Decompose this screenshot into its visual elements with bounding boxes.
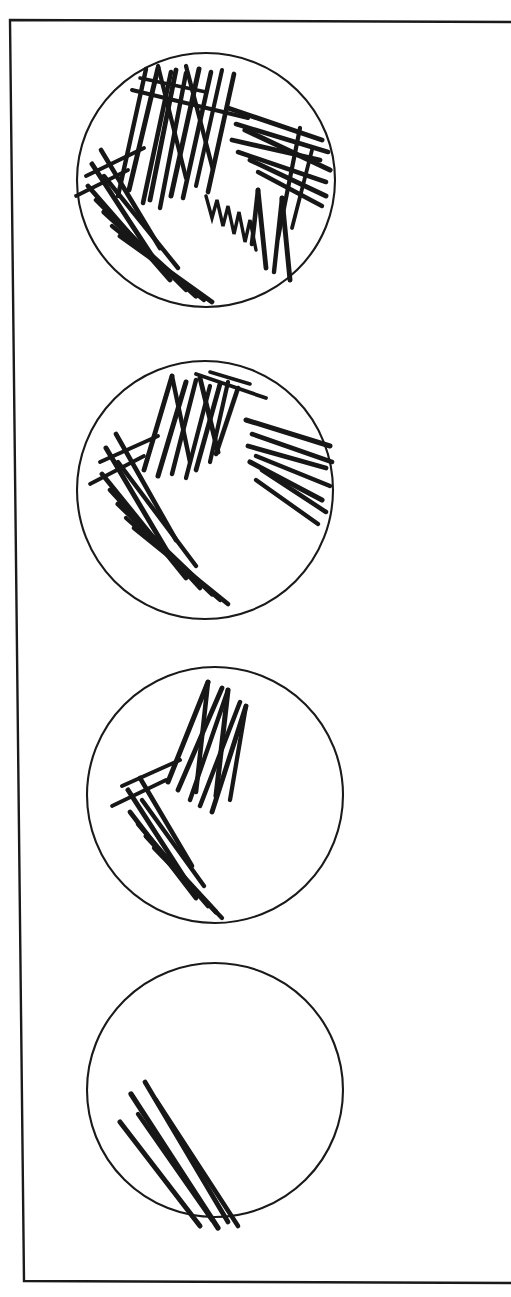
hatch-group-panel-2: [90, 372, 332, 604]
margin-caption: Fig. 1. Schematic of progressive surface…: [497, 0, 511, 1297]
circle-panel-1: [76, 53, 335, 307]
circle-panel-4: [87, 963, 343, 1228]
hatch-group-panel-3: [112, 682, 246, 918]
figure-page: Fig. 1. Schematic of progressive surface…: [0, 0, 511, 1297]
hatch-group-panel-1: [76, 66, 330, 302]
figure-canvas: [0, 0, 511, 1297]
circle-panel-3: [87, 667, 343, 923]
circle-panel-2: [77, 361, 333, 619]
hatch-group-panel-4: [120, 1082, 238, 1228]
